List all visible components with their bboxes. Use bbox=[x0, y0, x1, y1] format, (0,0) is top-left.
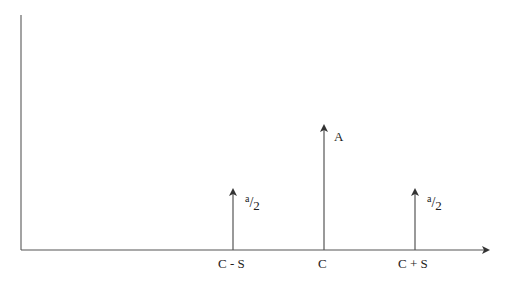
spectrum-diagram: a/2 A a/2 C - S C C + S bbox=[0, 0, 507, 282]
label-num: a bbox=[245, 193, 249, 204]
position-label-lower: C - S bbox=[218, 256, 245, 272]
label-num: a bbox=[427, 193, 431, 204]
label-den: 2 bbox=[435, 198, 442, 213]
position-label-carrier: C bbox=[318, 256, 327, 272]
diagram-lines bbox=[0, 0, 507, 282]
amplitude-label-carrier: A bbox=[334, 129, 343, 145]
label-den: 2 bbox=[253, 198, 260, 213]
position-label-upper: C + S bbox=[398, 256, 428, 272]
amplitude-label-lower: a/2 bbox=[245, 195, 260, 211]
amplitude-label-upper: a/2 bbox=[427, 195, 442, 211]
